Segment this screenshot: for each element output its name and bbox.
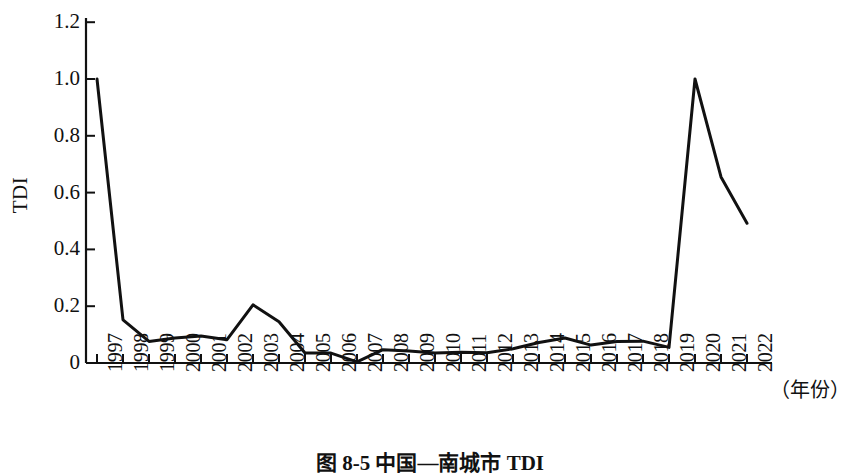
y-tick-marks (86, 22, 95, 363)
figure-caption: 图 8-5 中国—南城市 TDI (0, 446, 860, 476)
tdi-data-line (97, 79, 747, 362)
axes (86, 18, 772, 363)
x-axis-unit-label: （年份） (770, 374, 850, 403)
x-tick-marks (97, 354, 747, 363)
